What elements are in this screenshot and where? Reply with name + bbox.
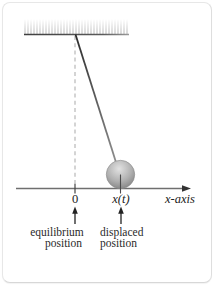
ceiling-hatch-fade: [24, 19, 129, 34]
displaced-caption-line2: position: [100, 237, 137, 250]
x-axis-label: x-axis: [164, 192, 195, 206]
pendulum-rod: [76, 35, 118, 168]
origin-label: 0: [72, 192, 78, 206]
equilibrium-pointer: [72, 207, 78, 225]
displaced-pointer: [118, 207, 124, 225]
up-arrow-icon: [72, 207, 78, 214]
displaced-caption: displaced position: [100, 226, 144, 250]
ceiling-mount: [24, 19, 129, 35]
equilibrium-caption: equilibrium position: [30, 226, 84, 250]
right-arrow-icon: [182, 185, 191, 192]
displacement-label: x(t): [111, 192, 129, 206]
equilibrium-caption-line2: position: [45, 237, 82, 250]
figure-card: 0 x(t) x-axis equilibrium position displ…: [2, 2, 212, 283]
pendulum-diagram: 0 x(t) x-axis equilibrium position displ…: [3, 3, 215, 289]
up-arrow-icon: [118, 207, 124, 214]
